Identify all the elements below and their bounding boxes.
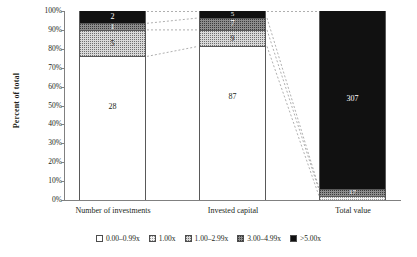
legend-label-gt500x: >5.00x [300, 234, 321, 243]
y-tick-mark-70 [61, 68, 64, 69]
segment-0to099x-bar3[interactable]: 9 [320, 196, 385, 200]
legend-label-300-499x: 3.00–4.99x [247, 234, 281, 243]
legend-item-0-099x[interactable]: 0.00–0.99x [96, 234, 140, 243]
y-tick-mark-60 [61, 87, 64, 88]
plot-area: 100% 90% 80% 70% 60% 50% 40% 30% 20% 10%… [64, 11, 401, 201]
segment-1to299x-bar3[interactable]: 17 [320, 189, 385, 197]
y-tick-mark-80 [61, 49, 64, 50]
legend-item-100-299x[interactable]: 1.00–2.99x [185, 234, 229, 243]
y-tick-20: 20% [26, 158, 62, 166]
y-tick-mark-30 [61, 143, 64, 144]
legend-swatch-icon-300-499x [237, 235, 244, 242]
segment-0to099x-bar2[interactable]: 87 [200, 46, 265, 200]
y-tick-70: 70% [26, 64, 62, 72]
bar-total-value[interactable]: 307 17 9 [319, 11, 386, 200]
y-tick-mark-90 [61, 30, 64, 31]
segment-0to099x-bar1[interactable]: 28 [80, 56, 145, 200]
y-tick-mark-20 [61, 162, 64, 163]
legend-swatch-icon-gt500x [290, 235, 297, 242]
y-tick-30: 30% [26, 139, 62, 147]
y-tick-100: 100% [26, 7, 62, 15]
y-tick-mark-10 [61, 181, 64, 182]
legend-item-gt500x[interactable]: >5.00x [290, 234, 321, 243]
y-tick-80: 80% [26, 45, 62, 53]
y-tick-mark-0 [61, 200, 64, 201]
legend-swatch-icon-100-299x [185, 235, 192, 242]
legend-swatch-icon-100x [149, 235, 156, 242]
chart-legend: 0.00–0.99x 1.00x 1.00–2.99x 3.00–4.99x >… [0, 234, 417, 243]
chart-container: Percent of total 100% 90% 80% 70% 60% 50… [0, 0, 417, 257]
legend-label-0-099x: 0.00–0.99x [106, 234, 140, 243]
bar-number-of-investments[interactable]: 2 1 5 28 [79, 11, 146, 200]
y-tick-40: 40% [26, 120, 62, 128]
segment-3to499x-bar1[interactable]: 1 [80, 23, 145, 30]
y-tick-mark-50 [61, 106, 64, 107]
x-axis-line [64, 200, 401, 201]
legend-label-100-299x: 1.00–2.99x [195, 234, 229, 243]
segment-1to299x-bar2[interactable]: 9 [200, 30, 265, 47]
y-tick-60: 60% [26, 83, 62, 91]
y-tick-50: 50% [26, 102, 62, 110]
y-tick-90: 90% [26, 26, 62, 34]
segment-gt5x-bar2[interactable]: 5 [200, 11, 265, 18]
y-tick-mark-100 [61, 11, 64, 12]
y-axis-title: Percent of total [12, 41, 21, 161]
segment-gt5x-bar1[interactable]: 2 [80, 11, 145, 23]
legend-swatch-icon-0-099x [96, 235, 103, 242]
legend-item-100x[interactable]: 1.00x [149, 234, 176, 243]
segment-1to299x-bar1[interactable]: 5 [80, 30, 145, 57]
legend-item-300-499x[interactable]: 3.00–4.99x [237, 234, 281, 243]
y-tick-mark-40 [61, 124, 64, 125]
x-label-invested-capital: Invested capital [163, 206, 303, 215]
segment-3to499x-bar2[interactable]: 7 [200, 18, 265, 30]
legend-label-100x: 1.00x [159, 234, 176, 243]
y-axis-line [64, 11, 65, 201]
x-label-number-of-investments: Number of investments [43, 206, 183, 215]
y-tick-10: 10% [26, 177, 62, 185]
bar-invested-capital[interactable]: 5 7 9 87 [199, 11, 266, 200]
segment-gt5x-bar3[interactable]: 307 [320, 11, 385, 189]
x-label-total-value: Total value [283, 206, 417, 215]
y-tick-0: 0% [26, 196, 62, 204]
